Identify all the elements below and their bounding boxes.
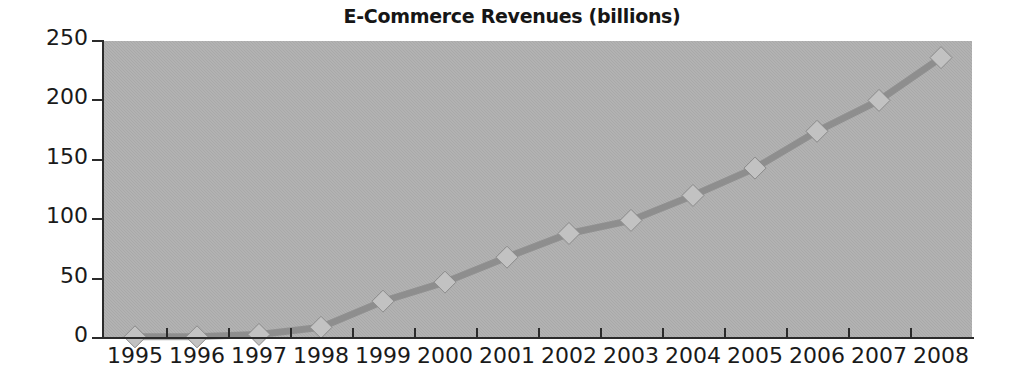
y-axis-tick: [92, 278, 104, 280]
chart-title: E-Commerce Revenues (billions): [0, 5, 1024, 27]
x-axis-tick: [848, 328, 850, 338]
y-axis-tick: [92, 99, 104, 101]
x-axis-tick: [910, 328, 912, 338]
x-axis-tick: [290, 328, 292, 338]
x-axis-tick-label: 2008: [910, 343, 972, 368]
data-point-marker: [496, 246, 518, 268]
y-axis-tick: [92, 40, 104, 42]
x-axis-tick: [352, 328, 354, 338]
y-axis-tick: [92, 218, 104, 220]
x-axis-tick: [228, 328, 230, 338]
plot-area: [104, 41, 972, 338]
x-axis-tick-label: 2005: [724, 343, 786, 368]
data-point-marker: [620, 209, 642, 231]
y-axis-tick-label: 200: [46, 84, 88, 109]
x-axis-tick-label: 1995: [104, 343, 166, 368]
x-axis-tick-label: 1997: [228, 343, 290, 368]
y-axis-tick-label: 0: [74, 322, 88, 347]
series-line: [135, 58, 941, 337]
x-axis-tick: [724, 328, 726, 338]
x-axis-tick-label: 2007: [848, 343, 910, 368]
x-axis-tick-label: 2001: [476, 343, 538, 368]
y-axis-tick-label: 100: [46, 203, 88, 228]
x-axis-tick: [600, 328, 602, 338]
data-point-marker: [434, 271, 456, 293]
chart-figure: E-Commerce Revenues (billions) 050100150…: [0, 0, 1024, 390]
x-axis-tick: [414, 328, 416, 338]
x-axis-tick-label: 1998: [290, 343, 352, 368]
series-line-shadow: [135, 58, 941, 337]
x-axis-tick: [166, 328, 168, 338]
y-axis-tick-label: 50: [60, 263, 88, 288]
series-plot: [104, 41, 972, 338]
x-axis-tick: [538, 328, 540, 338]
y-axis-tick-label: 150: [46, 144, 88, 169]
x-axis-tick: [662, 328, 664, 338]
y-axis-tick: [92, 337, 104, 339]
data-point-marker: [372, 290, 394, 312]
y-axis-tick-label: 250: [46, 25, 88, 50]
x-axis-tick-label: 1999: [352, 343, 414, 368]
y-axis-tick: [92, 159, 104, 161]
data-point-marker: [558, 222, 580, 244]
x-axis-tick-label: 1996: [166, 343, 228, 368]
x-axis-tick-label: 2004: [662, 343, 724, 368]
x-axis-tick: [476, 328, 478, 338]
x-axis-tick-label: 2002: [538, 343, 600, 368]
x-axis-tick-label: 2003: [600, 343, 662, 368]
x-axis-tick-label: 2006: [786, 343, 848, 368]
x-axis-tick: [786, 328, 788, 338]
x-axis-tick-label: 2000: [414, 343, 476, 368]
y-axis-line: [102, 41, 104, 339]
data-point-marker: [682, 184, 704, 206]
data-point-marker: [310, 316, 332, 338]
